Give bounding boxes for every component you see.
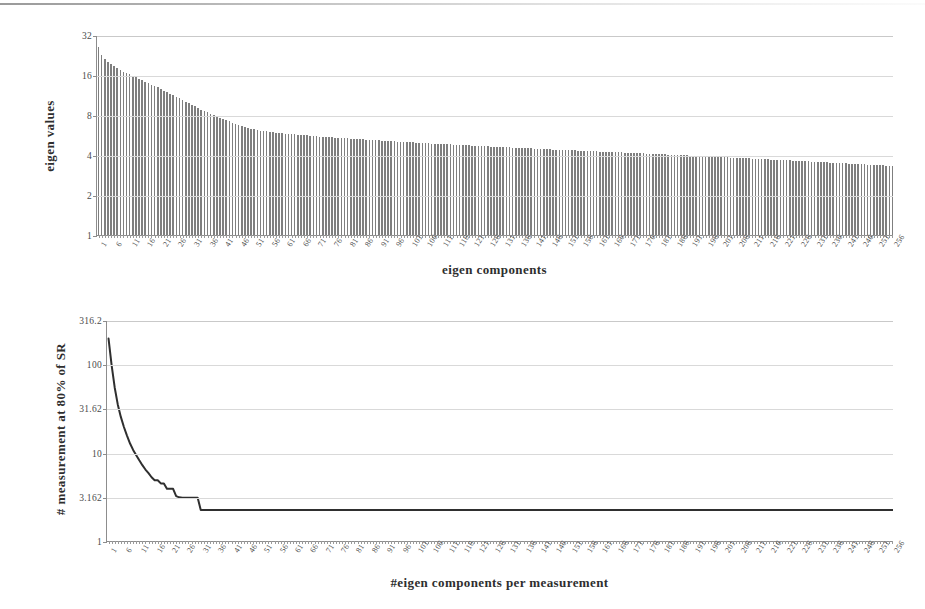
bar bbox=[652, 154, 654, 235]
bar bbox=[664, 154, 666, 235]
gridline bbox=[97, 156, 893, 157]
bar bbox=[225, 120, 227, 235]
x-axis-tick-mark bbox=[768, 235, 769, 238]
y-axis-title-eigen-values: eigen values bbox=[42, 76, 58, 196]
x-axis-tick-mark bbox=[108, 235, 109, 238]
bar bbox=[356, 139, 358, 235]
x-axis-tick-mark bbox=[585, 541, 586, 544]
bar bbox=[836, 163, 838, 235]
bar bbox=[671, 155, 673, 235]
x-axis-tick-mark bbox=[210, 541, 211, 544]
bar bbox=[113, 66, 115, 235]
x-axis-tick-mark bbox=[324, 541, 325, 544]
x-axis-tick-mark bbox=[208, 235, 209, 238]
x-axis-tick-mark bbox=[247, 541, 248, 544]
x-axis-tick-mark bbox=[357, 235, 358, 238]
bar bbox=[210, 114, 212, 235]
bar bbox=[552, 150, 554, 236]
x-axis-tick-mark bbox=[290, 541, 291, 544]
bar bbox=[882, 165, 884, 235]
y-axis-tick-label: 1 bbox=[97, 537, 102, 547]
x-axis-tick-mark bbox=[830, 235, 831, 238]
bar bbox=[434, 144, 436, 235]
bar bbox=[462, 145, 464, 235]
bar bbox=[129, 74, 131, 235]
bar bbox=[490, 147, 492, 235]
x-axis-tick-mark bbox=[846, 541, 847, 544]
x-axis-tick-mark bbox=[877, 235, 878, 238]
bar bbox=[232, 123, 234, 235]
x-axis-tick-mark bbox=[179, 541, 180, 544]
measurement-curve-svg bbox=[107, 321, 893, 541]
bar bbox=[101, 55, 103, 235]
x-axis-tick-label: 16 bbox=[145, 236, 157, 248]
x-axis-tick-mark bbox=[447, 541, 448, 544]
bar bbox=[674, 155, 676, 235]
bar bbox=[285, 134, 287, 235]
x-axis-tick-mark bbox=[201, 235, 202, 238]
bar bbox=[213, 115, 215, 235]
x-axis-tick-label: 11 bbox=[130, 237, 142, 249]
x-axis-tick-label: 66 bbox=[308, 542, 320, 554]
x-axis-tick-mark bbox=[121, 541, 122, 544]
x-axis-tick-mark bbox=[706, 235, 707, 238]
bar bbox=[244, 127, 246, 235]
x-axis-tick-mark bbox=[647, 541, 648, 544]
bar bbox=[789, 160, 791, 235]
bar bbox=[867, 165, 869, 235]
x-axis-tick-label: 11 bbox=[139, 543, 151, 555]
bar bbox=[562, 150, 564, 235]
bar bbox=[446, 144, 448, 235]
x-axis-tick-mark bbox=[739, 541, 740, 544]
bar bbox=[506, 147, 508, 235]
bar bbox=[602, 152, 604, 235]
x-axis-tick-mark bbox=[186, 235, 187, 238]
x-axis-tick-label: 31 bbox=[201, 542, 213, 554]
x-axis-tick-mark bbox=[130, 235, 131, 238]
bar bbox=[144, 82, 146, 235]
bar bbox=[359, 139, 361, 235]
bar bbox=[328, 137, 330, 235]
bar bbox=[804, 161, 806, 235]
x-axis-tick-mark bbox=[201, 541, 202, 544]
x-axis-tick-mark bbox=[341, 235, 342, 238]
x-axis-tick-mark bbox=[155, 235, 156, 238]
x-axis-tick-mark bbox=[348, 235, 349, 238]
x-axis-tick-mark bbox=[675, 235, 676, 238]
bar bbox=[200, 110, 202, 236]
bar bbox=[440, 144, 442, 235]
x-axis-tick-label: 41 bbox=[232, 542, 244, 554]
x-axis-tick-mark bbox=[192, 235, 193, 238]
x-axis-tick-label: 21 bbox=[161, 236, 173, 248]
x-axis-tick-mark bbox=[783, 235, 784, 238]
x-axis-tick-mark bbox=[301, 235, 302, 238]
bar bbox=[783, 160, 785, 235]
x-axis-tick-mark bbox=[462, 541, 463, 544]
x-axis-tick-mark bbox=[600, 541, 601, 544]
bar bbox=[303, 135, 305, 235]
bar bbox=[892, 166, 893, 235]
x-axis-tick-mark bbox=[721, 235, 722, 238]
bar bbox=[593, 151, 595, 235]
x-axis-tick-mark bbox=[816, 541, 817, 544]
x-axis-tick-mark bbox=[170, 541, 171, 544]
x-axis-tick-mark bbox=[236, 235, 237, 238]
x-axis-tick-label: 41 bbox=[223, 236, 235, 248]
bar bbox=[250, 129, 252, 235]
bar bbox=[110, 64, 112, 235]
bar bbox=[378, 140, 380, 235]
x-axis-tick-mark bbox=[398, 541, 399, 544]
x-axis-tick-label: 256 bbox=[893, 233, 907, 248]
bar bbox=[605, 152, 607, 235]
bar bbox=[341, 138, 343, 235]
x-axis-tick-mark bbox=[216, 541, 217, 544]
x-axis-tick-mark bbox=[892, 541, 893, 544]
bar bbox=[524, 148, 526, 235]
x-axis-tick-mark bbox=[170, 235, 171, 238]
x-axis-tick-mark bbox=[416, 541, 417, 544]
bar bbox=[316, 136, 318, 235]
x-axis-tick-mark bbox=[115, 541, 116, 544]
x-axis-tick-mark bbox=[133, 541, 134, 544]
x-axis-tick-mark bbox=[271, 541, 272, 544]
x-axis-tick-label: 91 bbox=[385, 542, 397, 554]
